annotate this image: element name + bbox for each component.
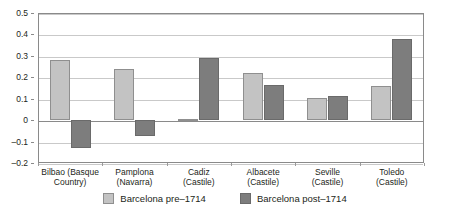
- x-axis-category-label-line: Seville: [312, 167, 344, 177]
- x-axis-category-label-line: Country): [41, 177, 99, 187]
- y-axis: 0.50.40.30.20.10–0.1–0.2: [0, 13, 34, 163]
- x-tick-mark: [424, 163, 425, 166]
- gridline: [39, 14, 423, 15]
- x-axis-category-label-line: (Navarra): [115, 177, 153, 187]
- legend-item: Barcelona pre–1714: [103, 193, 206, 204]
- y-tick-mark: [31, 120, 34, 121]
- y-tick-mark: [31, 99, 34, 100]
- x-axis-category-label-line: Bilbao (Basque: [41, 167, 99, 177]
- plot-area: [38, 13, 424, 163]
- gridline: [39, 143, 423, 144]
- bar-chart-figure: 0.50.40.30.20.10–0.1–0.2 Bilbao (BasqueC…: [0, 0, 450, 222]
- x-axis-category-label-line: (Castile): [376, 177, 408, 187]
- gridline: [39, 78, 423, 79]
- legend-swatch-icon: [103, 193, 114, 204]
- legend-label: Barcelona pre–1714: [120, 194, 206, 204]
- x-tick-mark: [295, 163, 296, 166]
- x-axis-category-label: Albacete(Castile): [247, 167, 280, 187]
- x-axis-category-label-line: Cadiz: [183, 167, 215, 177]
- x-tick-mark: [360, 163, 361, 166]
- y-tick-label: –0.2: [11, 159, 28, 168]
- x-axis-category-label-line: (Castile): [247, 177, 280, 187]
- x-tick-mark: [231, 163, 232, 166]
- zero-line: [39, 121, 423, 122]
- gridline: [39, 57, 423, 58]
- y-tick-label: 0.1: [16, 94, 28, 103]
- y-tick-label: 0.2: [16, 73, 28, 82]
- x-tick-mark: [102, 163, 103, 166]
- gridline: [39, 35, 423, 36]
- x-axis-category-label-line: Pamplona: [115, 167, 153, 177]
- legend-item: Barcelona post–1714: [240, 193, 347, 204]
- x-tick-mark: [38, 163, 39, 166]
- x-axis-category-label-line: Albacete: [247, 167, 280, 177]
- legend-label: Barcelona post–1714: [257, 194, 347, 204]
- y-tick-mark: [31, 77, 34, 78]
- x-tick-mark: [167, 163, 168, 166]
- y-tick-mark: [31, 34, 34, 35]
- x-axis-category-label-line: (Castile): [183, 177, 215, 187]
- y-tick-label: –0.1: [11, 137, 28, 146]
- x-axis: Bilbao (BasqueCountry)Pamplona(Navarra)C…: [38, 165, 424, 191]
- y-tick-mark: [31, 56, 34, 57]
- y-tick-label: 0.5: [16, 9, 28, 18]
- y-tick-label: 0.4: [16, 30, 28, 39]
- x-axis-category-label-line: (Castile): [312, 177, 344, 187]
- legend-swatch-icon: [240, 193, 251, 204]
- gridline: [39, 100, 423, 101]
- x-axis-category-label: Toledo(Castile): [376, 167, 408, 187]
- y-tick-mark: [31, 13, 34, 14]
- x-axis-category-label: Seville(Castile): [312, 167, 344, 187]
- x-axis-category-label: Pamplona(Navarra): [115, 167, 153, 187]
- y-tick-label: 0.3: [16, 52, 28, 61]
- x-axis-category-label: Cadiz(Castile): [183, 167, 215, 187]
- x-axis-category-label-line: Toledo: [376, 167, 408, 177]
- y-tick-mark: [31, 142, 34, 143]
- y-tick-label: 0: [23, 116, 28, 125]
- chart-legend: Barcelona pre–1714Barcelona post–1714: [0, 193, 450, 204]
- y-tick-mark: [31, 163, 34, 164]
- x-axis-category-label: Bilbao (BasqueCountry): [41, 167, 99, 187]
- bottom-caption: [0, 214, 450, 222]
